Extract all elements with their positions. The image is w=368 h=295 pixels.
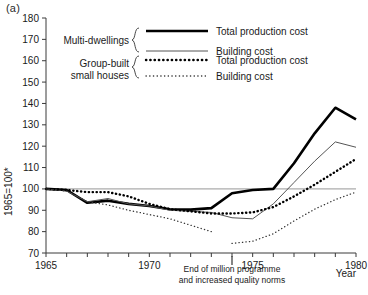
series-line <box>232 192 356 243</box>
y-tick-label: 170 <box>22 34 39 45</box>
y-tick-label: 150 <box>22 77 39 88</box>
annotation-line-1: End of million programme <box>184 264 281 274</box>
legend-group-label-multi-dwellings: Multi-dwellings <box>63 35 129 46</box>
y-tick-label: 180 <box>22 13 39 24</box>
x-tick-label: 1970 <box>138 260 161 271</box>
legend-label-group-building-cost: Building cost <box>216 71 273 82</box>
x-tick-label: 1965 <box>35 260 58 271</box>
y-tick-label: 110 <box>23 162 39 173</box>
panel-label: (a) <box>6 2 20 14</box>
legend-group-label-group-built-line2: small houses <box>71 70 129 81</box>
y-tick-label: 130 <box>22 119 39 130</box>
legend-label-multi-total-production-cost: Total production cost <box>216 26 308 37</box>
y-axis-title: 1965=100* <box>3 167 14 216</box>
line-chart: 708090100110120130140150160170180 196519… <box>0 0 368 295</box>
legend-group-label-group-built-line1: Group-built <box>80 58 130 69</box>
x-axis-title: Year <box>336 268 357 279</box>
y-tick-label: 80 <box>28 226 40 237</box>
y-tick-label: 70 <box>28 248 40 259</box>
legend-brace-group-built <box>132 56 139 78</box>
y-tick-label: 140 <box>22 98 39 109</box>
chart-series-group <box>46 108 356 244</box>
y-tick-label: 120 <box>22 141 39 152</box>
chart-legend: Multi-dwellings Group-built small houses… <box>63 26 308 82</box>
y-tick-label: 100 <box>22 183 39 194</box>
annotation-line-2: and increased quality norms <box>179 275 285 285</box>
y-axis-ticks: 708090100110120130140150160170180 <box>22 13 46 259</box>
legend-brace-multi-dwellings <box>132 28 139 52</box>
y-tick-label: 90 <box>28 205 40 216</box>
series-line <box>46 108 356 210</box>
series-line <box>46 142 356 219</box>
legend-label-group-total-production-cost: Total production cost <box>216 55 308 66</box>
chart-axes <box>46 18 356 253</box>
y-tick-label: 160 <box>22 55 39 66</box>
figure-panel: (a) 708090100110120130140150160170180 19… <box>0 0 368 295</box>
